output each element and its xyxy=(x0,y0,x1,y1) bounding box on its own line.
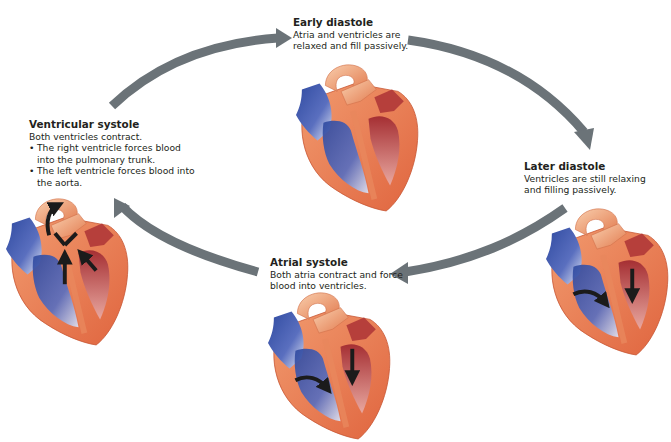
stage-bullets: The right ventricle forces blood into th… xyxy=(29,142,199,188)
stage-label-ventricular-systole: Ventricular systole Both ventricles cont… xyxy=(29,118,199,188)
cycle-arrow-ventricular-to-early xyxy=(112,28,292,106)
stage-description: Ventricles are still relaxing and fillin… xyxy=(524,173,664,196)
cycle-arrow-atrial-to-ventricular xyxy=(114,198,258,272)
cycle-arrow-later-to-atrial xyxy=(390,208,565,284)
heart-ventricular-systole xyxy=(6,199,128,345)
cycle-arrow-early-to-later xyxy=(408,40,594,150)
stage-label-atrial-systole: Atrial systole Both atria contract and f… xyxy=(270,256,408,292)
stage-title: Later diastole xyxy=(524,160,664,173)
stage-title: Ventricular systole xyxy=(29,118,199,131)
cardiac-cycle-diagram: Early diastole Atria and ventricles are … xyxy=(0,0,671,442)
stage-bullet: The left ventricle forces blood into the… xyxy=(29,165,199,188)
stage-label-later-diastole: Later diastole Ventricles are still rela… xyxy=(524,160,664,196)
heart-early-diastole xyxy=(296,65,418,211)
stage-bullet: The right ventricle forces blood into th… xyxy=(29,142,199,165)
stage-description: Both atria contract and force blood into… xyxy=(270,269,408,292)
heart-atrial-systole xyxy=(268,293,390,439)
diagram-artwork xyxy=(0,0,671,442)
stage-title: Early diastole xyxy=(293,16,413,29)
stage-description: Both ventricles contract. xyxy=(29,131,199,142)
stage-description: Atria and ventricles are relaxed and fil… xyxy=(293,29,413,52)
heart-later-diastole xyxy=(546,209,668,355)
stage-title: Atrial systole xyxy=(270,256,408,269)
stage-label-early-diastole: Early diastole Atria and ventricles are … xyxy=(293,16,413,52)
